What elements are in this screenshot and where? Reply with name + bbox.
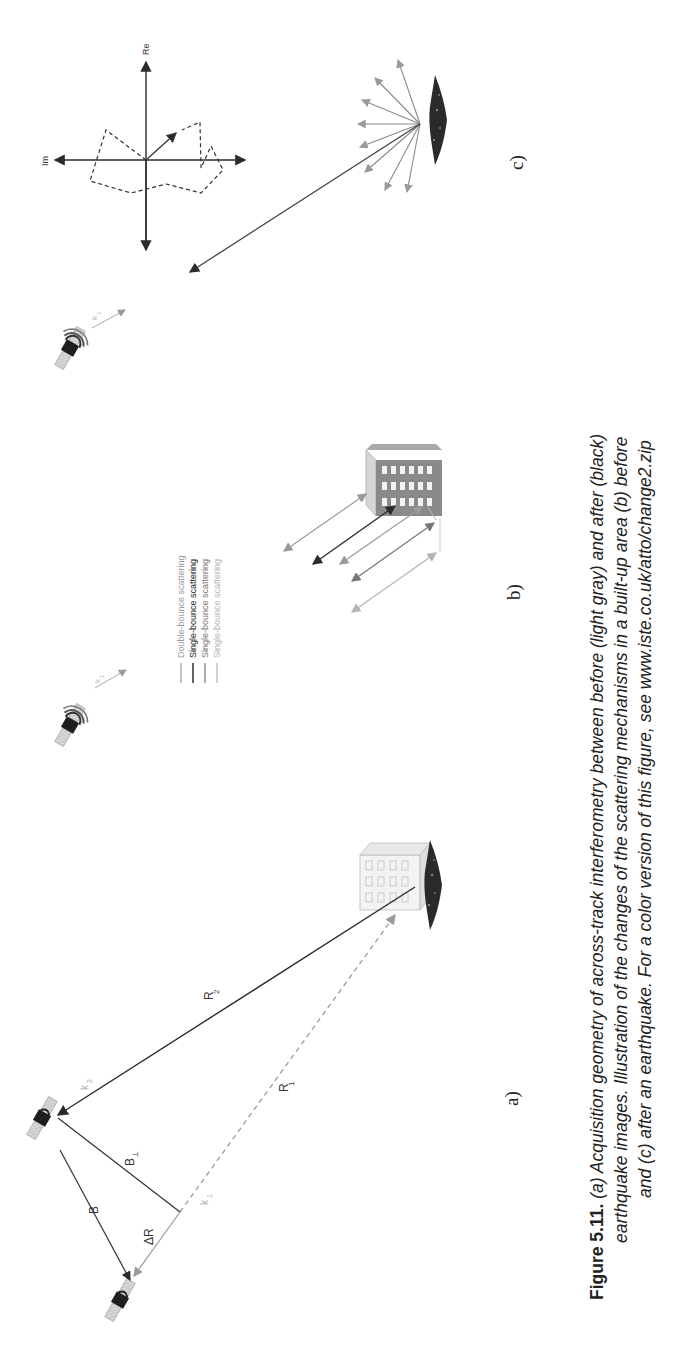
b-perp-label: B <box>123 1158 137 1166</box>
delta-r-line <box>134 1212 180 1276</box>
b-label: B <box>87 1206 101 1214</box>
svg-text:1: 1 <box>99 674 105 678</box>
legend-item-single-bounce-light: Single-bounce scattering <box>212 559 222 683</box>
figure-caption: Figure 5.11. (a) Acquisition geometry of… <box>587 434 655 1300</box>
satellite-before-icon <box>103 1277 137 1322</box>
range-r1-line <box>180 915 395 1212</box>
building-b-icon <box>366 444 442 516</box>
svg-text:2: 2 <box>86 1079 93 1083</box>
caption-line-3: and (c) after an earthquake. For a color… <box>635 440 655 1198</box>
svg-text:2: 2 <box>96 311 102 315</box>
satellite-b-icon <box>47 699 93 751</box>
complex-plane: Re Im <box>40 43 245 250</box>
panel-b: k 1 Double-bounce scattering Single-boun… <box>47 444 525 751</box>
svg-text:Single-bounce scattering: Single-bounce scattering <box>200 559 210 658</box>
legend-item-double-bounce: Double-bounce scattering <box>176 555 186 683</box>
k1-label: k <box>199 1199 210 1205</box>
im-axis-label: Im <box>40 156 50 166</box>
figure-page: R 2 R 1 B B ⊥ ΔR k 1 k 2 a) k 1 Double-b… <box>0 0 693 1351</box>
panel-c: k 2 Re Im c) <box>40 43 528 374</box>
panel-c-label: c) <box>506 155 528 170</box>
svg-text:2: 2 <box>212 989 221 994</box>
baseline-b-line <box>60 1150 130 1280</box>
svg-text:Double-bounce scattering: Double-bounce scattering <box>176 555 186 658</box>
panel-b-label: b) <box>503 584 525 600</box>
baseline-perp-line <box>58 1118 180 1212</box>
phasor-chain-path <box>90 122 223 193</box>
svg-text:Single-bounce scattering: Single-bounce scattering <box>212 559 222 658</box>
rubble-c-icon <box>429 75 447 165</box>
delta-r-label: ΔR <box>142 1228 156 1245</box>
panel-a-label: a) <box>501 1091 523 1106</box>
svg-text:1: 1 <box>287 1081 296 1086</box>
svg-text:1: 1 <box>206 1194 213 1198</box>
svg-text:⊥: ⊥ <box>131 1151 140 1158</box>
figure-canvas: R 2 R 1 B B ⊥ ΔR k 1 k 2 a) k 1 Double-b… <box>0 0 693 1351</box>
scattering-legend: Double-bounce scattering Single-bounce s… <box>176 555 222 683</box>
satellite-c-icon <box>47 322 93 374</box>
legend-item-single-bounce-black: Single-bounce scattering <box>188 559 198 683</box>
legend-item-single-bounce-gray: Single-bounce scattering <box>200 559 210 683</box>
phasor-sum-arrow <box>146 133 176 160</box>
svg-text:Single-bounce scattering: Single-bounce scattering <box>188 559 198 658</box>
satellite-after-icon <box>25 1095 59 1140</box>
diffuse-scattering-arrows <box>358 60 420 192</box>
caption-line-2: earthquake images. Illustration of the c… <box>611 436 631 1243</box>
caption-line-1: Figure 5.11. (a) Acquisition geometry of… <box>587 434 607 1300</box>
return-range-arrow <box>190 124 420 272</box>
re-axis-label: Re <box>141 43 151 55</box>
k2-label: k <box>79 1084 90 1090</box>
range-r2-line <box>58 887 415 1115</box>
k-vector-b <box>95 670 126 688</box>
figure-number: Figure 5.11. <box>587 1204 607 1300</box>
panel-a: R 2 R 1 B B ⊥ ΔR k 1 k 2 a) <box>25 840 523 1323</box>
